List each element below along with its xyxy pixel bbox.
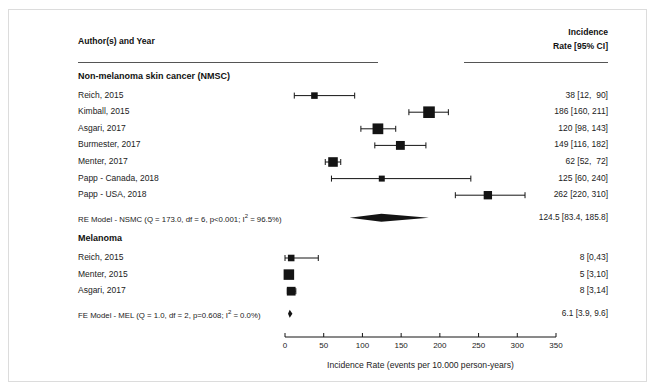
x-tick-label-5: 250	[459, 342, 499, 350]
x-tick-label-2: 100	[342, 342, 382, 350]
x-axis-caption: Incidence Rate (events per 10.000 person…	[285, 361, 556, 370]
x-tick-label-3: 150	[381, 342, 421, 350]
x-tick-label-6: 300	[497, 342, 537, 350]
x-tick-label-0: 0	[265, 342, 305, 350]
x-tick-label-7: 350	[536, 342, 576, 350]
x-tick-label-4: 200	[420, 342, 460, 350]
x-tick-label-1: 50	[304, 342, 344, 350]
forest-plot-canvas	[0, 0, 657, 391]
